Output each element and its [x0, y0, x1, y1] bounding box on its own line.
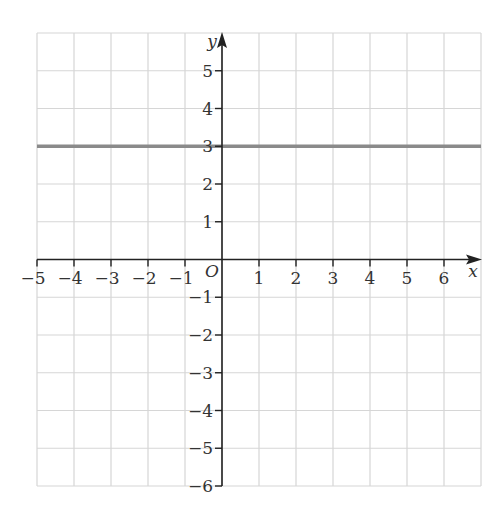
origin-label: O: [205, 261, 219, 281]
y-tick-label: −6: [188, 476, 213, 496]
y-axis-label: y: [206, 31, 217, 51]
x-tick-label: 6: [439, 268, 450, 288]
x-tick-label: −3: [94, 268, 119, 288]
x-tick-label: 4: [365, 268, 376, 288]
tick-labels: −5−4−3−2−112345654321−1−2−3−4−5−6Oxy: [20, 31, 478, 496]
y-tick-label: 4: [202, 99, 213, 119]
x-tick-label: −1: [168, 268, 193, 288]
x-tick-label: −2: [131, 268, 156, 288]
y-tick-label: −2: [188, 325, 213, 345]
x-tick-label: 1: [254, 268, 265, 288]
y-tick-label: −3: [188, 363, 213, 383]
x-tick-label: 5: [402, 268, 413, 288]
x-tick-label: 2: [291, 268, 302, 288]
y-tick-label: −1: [188, 287, 213, 307]
y-tick-label: −5: [188, 438, 213, 458]
y-tick-label: 3: [202, 136, 213, 156]
y-tick-label: −4: [188, 401, 213, 421]
y-tick-label: 2: [202, 174, 213, 194]
coordinate-plane: −5−4−3−2−112345654321−1−2−3−4−5−6Oxy: [0, 0, 489, 522]
x-tick-label: −5: [20, 268, 45, 288]
x-axis-label: x: [468, 261, 478, 281]
x-tick-label: −4: [57, 268, 82, 288]
x-tick-label: 3: [328, 268, 339, 288]
y-tick-label: 1: [202, 212, 213, 232]
y-tick-label: 5: [202, 61, 213, 81]
